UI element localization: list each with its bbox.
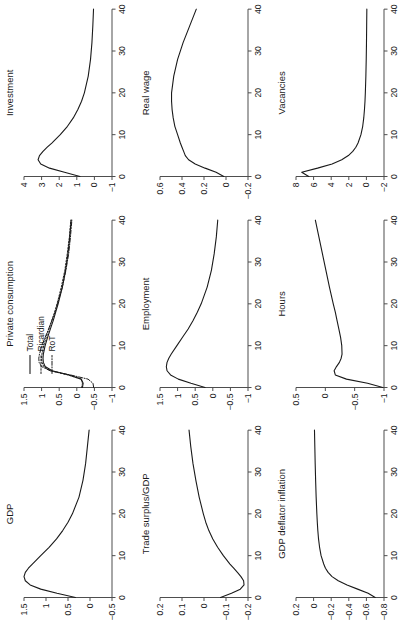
svg-text:30: 30 [253,46,263,56]
svg-text:−0.2: −0.2 [326,603,336,620]
series-line [315,219,382,386]
series-line [42,219,83,386]
svg-text:Vacancies: Vacancies [276,71,287,114]
figure-stage: GDP010203040−0.500.511.5 Private consump… [0,0,408,631]
svg-text:30: 30 [389,256,399,266]
svg-text:10: 10 [117,130,127,140]
svg-text:30: 30 [389,46,399,56]
svg-text:0: 0 [389,384,399,389]
svg-text:1.5: 1.5 [19,603,29,615]
svg-text:0.2: 0.2 [199,182,209,194]
svg-text:30: 30 [117,46,127,56]
svg-text:−1: −1 [243,392,253,402]
svg-text:10: 10 [389,340,399,350]
svg-text:1.5: 1.5 [155,392,165,404]
svg-text:−1: −1 [107,392,117,402]
series-line [302,9,367,176]
svg-text:20: 20 [253,298,263,308]
svg-text:0.5: 0.5 [63,603,73,615]
svg-text:−0.6: −0.6 [361,603,371,620]
svg-text:0: 0 [208,392,218,397]
svg-text:2: 2 [344,182,354,187]
svg-text:40: 40 [253,214,263,224]
svg-text:2: 2 [54,182,64,187]
series-line [172,9,224,176]
svg-text:0: 0 [389,174,399,179]
svg-text:GDP: GDP [4,503,15,524]
svg-text:1: 1 [72,182,82,187]
svg-text:0: 0 [253,384,263,389]
svg-text:−0.2: −0.2 [243,182,253,199]
svg-text:20: 20 [389,298,399,308]
svg-text:40: 40 [117,214,127,224]
svg-text:0: 0 [309,603,319,608]
legend-label-total: Total [25,333,35,351]
svg-text:−2: −2 [379,182,389,192]
svg-text:0.1: 0.1 [177,603,187,615]
series-line [43,219,83,386]
panel-vacancies: Vacancies010203040−202468 [272,0,408,210]
panel-trade-surplus-gdp: Trade surplus/GDP010203040−0.2−0.100.10.… [136,421,272,631]
svg-text:30: 30 [117,467,127,477]
panel-real-wage: Real wage010203040−0.200.20.40.6 [136,0,272,210]
svg-text:−0.2: −0.2 [243,603,253,620]
svg-text:10: 10 [253,130,263,140]
svg-text:Investment: Investment [4,69,15,116]
svg-text:Real wage: Real wage [140,70,151,115]
svg-text:0: 0 [221,182,231,187]
svg-text:40: 40 [389,4,399,14]
panel-gdp: GDP010203040−0.500.511.5 [0,421,136,631]
svg-text:0.5: 0.5 [291,392,301,404]
svg-text:−0.8: −0.8 [379,603,389,620]
panel-employment: Employment010203040−1−0.500.511.5 [136,210,272,420]
svg-text:20: 20 [117,508,127,518]
svg-text:6: 6 [309,182,319,187]
figure-canvas: GDP010203040−0.500.511.5 Private consump… [0,0,408,631]
svg-text:40: 40 [389,214,399,224]
svg-text:40: 40 [253,4,263,14]
svg-text:0.6: 0.6 [155,182,165,194]
svg-text:20: 20 [117,298,127,308]
svg-text:−1: −1 [107,182,117,192]
svg-text:0.5: 0.5 [190,392,200,404]
svg-text:Trade surplus/GDP: Trade surplus/GDP [140,473,151,554]
svg-text:0.2: 0.2 [291,603,301,615]
svg-text:40: 40 [253,425,263,435]
svg-text:8: 8 [291,182,301,187]
svg-text:10: 10 [389,130,399,140]
series-line [39,219,94,386]
svg-text:0.5: 0.5 [54,392,64,404]
svg-text:10: 10 [253,340,263,350]
svg-text:0: 0 [89,182,99,187]
panel-grid: GDP010203040−0.500.511.5 Private consump… [0,0,408,631]
svg-text:10: 10 [117,550,127,560]
svg-text:20: 20 [389,88,399,98]
svg-text:20: 20 [117,88,127,98]
svg-text:4: 4 [19,182,29,187]
svg-text:Employment: Employment [140,276,151,329]
svg-text:−0.5: −0.5 [89,392,99,409]
series-line [38,9,93,176]
svg-text:3: 3 [37,182,47,187]
panel-gdp-deflator-inflation: GDP deflator inflation010203040−0.8−0.6−… [272,421,408,631]
svg-text:0.2: 0.2 [155,603,165,615]
panel-hours: Hours010203040−1−0.500.5 [272,210,408,420]
series-line [189,430,244,597]
svg-text:0: 0 [253,174,263,179]
svg-text:−0.5: −0.5 [107,603,117,620]
svg-text:0: 0 [361,182,371,187]
svg-text:30: 30 [253,256,263,266]
series-line [24,430,89,597]
svg-text:1: 1 [173,392,183,397]
svg-text:20: 20 [389,508,399,518]
svg-text:10: 10 [117,340,127,350]
svg-text:0: 0 [320,392,330,397]
svg-text:40: 40 [117,4,127,14]
svg-text:0: 0 [72,392,82,397]
svg-text:0.4: 0.4 [177,182,187,194]
legend-label-ricardian: Ricardian [36,315,46,351]
svg-text:0: 0 [199,603,209,608]
svg-text:4: 4 [326,182,336,187]
svg-text:−0.4: −0.4 [344,603,354,620]
svg-text:0: 0 [117,594,127,599]
